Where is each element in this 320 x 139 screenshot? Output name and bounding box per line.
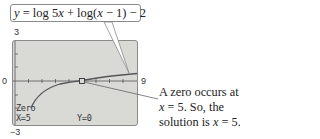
- annotation-line-1: A zero occurs at: [159, 85, 240, 100]
- text: = 5. So, the: [164, 100, 224, 114]
- text: solution is: [159, 115, 213, 129]
- zero-marker: [80, 79, 85, 84]
- text: = 5.: [218, 115, 240, 129]
- annotation-line-2: x = 5. So, the: [159, 100, 240, 115]
- annotation-line-3: solution is x = 5.: [159, 115, 240, 130]
- annotation-pointer: [84, 82, 158, 99]
- zero-annotation: A zero occurs at x = 5. So, the solution…: [159, 85, 240, 130]
- callout-pointer: [104, 22, 129, 73]
